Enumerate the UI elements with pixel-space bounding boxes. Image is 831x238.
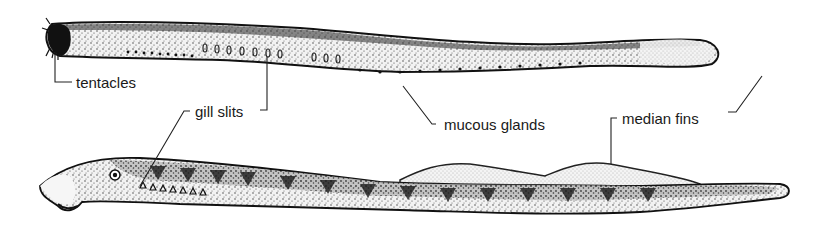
label-tentacles: tentacles xyxy=(76,75,136,90)
eel-illustration xyxy=(0,0,831,238)
lower-animal xyxy=(40,158,789,214)
upper-animal xyxy=(42,18,718,74)
label-mucous-glands: mucous glands xyxy=(444,117,545,132)
label-gill-slits: gill slits xyxy=(195,104,243,119)
illustration-stage: tentacles gill slits mucous glands media… xyxy=(0,0,831,238)
label-median-fins: median fins xyxy=(622,111,699,126)
